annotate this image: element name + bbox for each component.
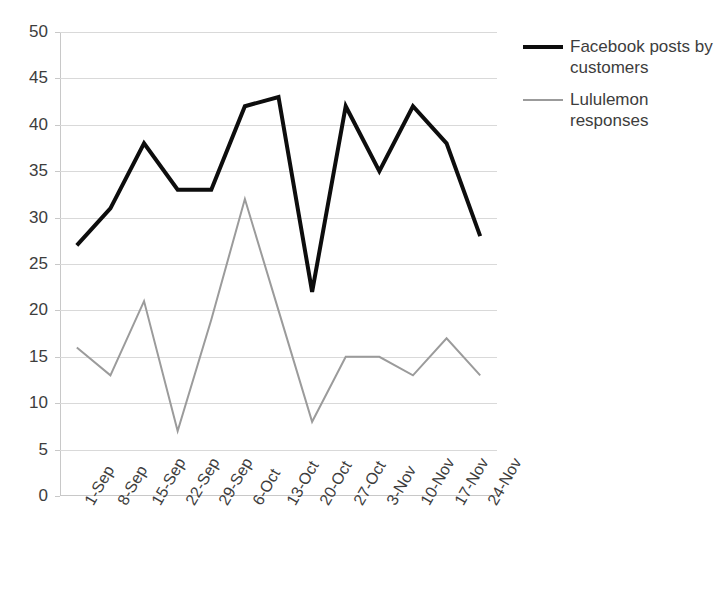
y-tick-mark: [55, 496, 60, 497]
legend-item-label: Lululemon responses: [570, 89, 720, 132]
legend-item[interactable]: Facebook posts by customers: [523, 36, 723, 79]
y-tick-label: 35: [29, 162, 48, 179]
y-tick-label: 30: [29, 209, 48, 226]
x-axis: 1-Sep8-Sep15-Sep22-Sep29-Sep6-Oct13-Oct2…: [60, 500, 497, 590]
y-tick-label: 0: [39, 487, 48, 504]
y-tick-label: 5: [39, 441, 48, 458]
y-axis: 05101520253035404550: [0, 0, 48, 590]
y-tick-label: 20: [29, 301, 48, 318]
y-tick-label: 40: [29, 116, 48, 133]
y-tick-label: 25: [29, 255, 48, 272]
series-line: [77, 199, 480, 431]
legend-item-label: Facebook posts by customers: [570, 36, 720, 79]
plot-area: [60, 32, 497, 496]
legend-item[interactable]: Lululemon responses: [523, 89, 723, 132]
y-tick-label: 15: [29, 348, 48, 365]
y-tick-label: 10: [29, 394, 48, 411]
y-tick-label: 45: [29, 69, 48, 86]
y-tick-label: 50: [29, 23, 48, 40]
series-line: [77, 97, 480, 292]
series-lines: [60, 32, 497, 496]
line-chart: 05101520253035404550 1-Sep8-Sep15-Sep22-…: [0, 0, 727, 590]
legend-line-icon: [523, 45, 563, 49]
legend-line-icon: [523, 99, 563, 101]
chart-legend: Facebook posts by customersLululemon res…: [523, 36, 723, 141]
